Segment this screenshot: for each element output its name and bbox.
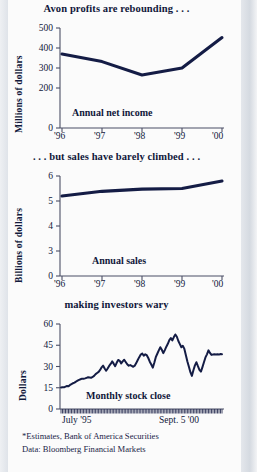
ytick-5: 5 (48, 196, 53, 206)
chart2-xtick-98: '98 (134, 279, 145, 289)
ytick-300: 300 (39, 63, 54, 73)
footnote-estimates: *Estimates, Bank of America Securities (22, 430, 237, 443)
ytick-200: 200 (39, 83, 54, 93)
chart-net-income-svg: 0 200 300 400 500 (0, 15, 233, 143)
chart-annual-sales-plot: Billions of dollars 0 3 4 5 6 (0, 163, 233, 291)
ytick-15: 15 (44, 383, 54, 393)
chart1-xtick-96: '96 (54, 131, 65, 141)
chart-stock-series (61, 334, 222, 387)
chart-monthly-stock-close: making investors wary Dollars 0 15 30 45… (0, 298, 233, 441)
chart-annual-sales-series-label: Annual sales (92, 255, 146, 266)
ytick-400: 400 (39, 43, 54, 53)
ytick-3: 3 (48, 246, 53, 256)
chart-net-income-series (62, 38, 222, 75)
chart-stock-series-label: Monthly stock close (86, 390, 170, 401)
ytick-45: 45 (44, 340, 54, 350)
chart-stock-xticks (61, 409, 222, 414)
ytick-30: 30 (44, 362, 54, 372)
ytick-500: 500 (39, 23, 54, 33)
ytick-4: 4 (48, 221, 53, 231)
chart-annual-sales-svg: 0 3 4 5 6 (0, 163, 233, 291)
chart-stock-ylabel: Dollars (18, 349, 28, 401)
chart1-xtick-99: '99 (174, 131, 185, 141)
chart-stock-plot: Dollars 0 15 30 45 60 (0, 311, 233, 441)
chart2-xtick-97: '97 (94, 279, 105, 289)
chart2-xtick-96: '96 (54, 279, 65, 289)
page-right-gutter (241, 0, 257, 472)
chart2-xtick-00: '00 (212, 279, 223, 289)
ytick-60: 60 (44, 319, 54, 329)
figure-root: Avon profits are rebounding . . . Millio… (0, 0, 257, 472)
chart-stock-title: making investors wary (0, 298, 233, 311)
chart3-xtick-end: Sept. 5 '00 (159, 415, 199, 425)
ytick-6: 6 (48, 171, 53, 181)
chart3-xtick-start: July '95 (62, 415, 91, 425)
ytick-0: 0 (48, 123, 53, 133)
figure-footnotes: *Estimates, Bank of America Securities D… (22, 430, 237, 455)
chart1-xtick-97: '97 (94, 131, 105, 141)
chart-annual-sales-series (62, 181, 222, 196)
footnote-source: Data: Bloomberg Financial Markets (22, 443, 237, 456)
chart-annual-sales-title: . . . but sales have barely climbed . . … (0, 150, 233, 163)
ytick-0: 0 (48, 404, 53, 414)
chart1-xtick-98: '98 (134, 131, 145, 141)
ytick-0: 0 (48, 271, 53, 281)
chart1-xtick-00: '00 (212, 131, 223, 141)
chart-net-income: Avon profits are rebounding . . . Millio… (0, 2, 233, 143)
chart-net-income-title: Avon profits are rebounding . . . (0, 2, 233, 15)
chart2-xtick-99: '99 (174, 279, 185, 289)
chart-annual-sales: . . . but sales have barely climbed . . … (0, 150, 233, 291)
chart-annual-sales-ylabel: Billions of dollars (14, 179, 24, 283)
chart-net-income-ylabel: Millions of dollars (14, 33, 24, 133)
chart-net-income-plot: Millions of dollars 0 200 300 400 (0, 15, 233, 143)
chart-net-income-series-label: Annual net income (72, 107, 153, 118)
